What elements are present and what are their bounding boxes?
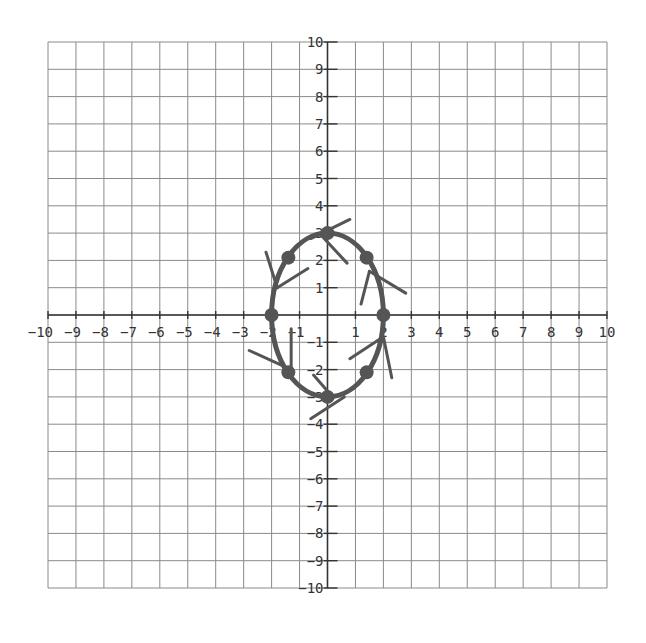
x-tick-label: 3 (407, 324, 415, 340)
x-tick-label: 1 (351, 324, 359, 340)
tangent-segment (383, 337, 391, 378)
x-tick-label: −5 (176, 324, 193, 340)
y-tick-label: −9 (307, 553, 324, 569)
x-tick-label: −6 (148, 324, 165, 340)
x-tick-label: −8 (92, 324, 109, 340)
x-tick-label: 9 (575, 324, 583, 340)
y-tick-label: −7 (307, 498, 324, 514)
x-tick-label: −4 (204, 324, 221, 340)
y-tick-label: 10 (307, 34, 324, 50)
x-tick-label: −10 (28, 324, 53, 340)
point-marker (360, 251, 374, 265)
y-tick-label: −6 (307, 471, 324, 487)
coordinate-plane: −10−9−8−7−6−5−4−3−2−112345678910 −10−9−8… (0, 0, 646, 643)
point-marker (281, 251, 295, 265)
y-tick-label: −10 (298, 580, 323, 596)
point-marker (321, 226, 335, 240)
x-tick-label: 7 (519, 324, 527, 340)
y-tick-label: −8 (307, 525, 324, 541)
point-marker (321, 390, 335, 404)
point-marker (360, 365, 374, 379)
y-tick-label: 6 (315, 143, 323, 159)
x-tick-label: 4 (435, 324, 443, 340)
x-tick-label: 8 (547, 324, 555, 340)
y-tick-label: 8 (315, 89, 323, 105)
y-tick-label: −4 (307, 416, 324, 432)
y-tick-label: 9 (315, 61, 323, 77)
y-tick-label: 7 (315, 116, 323, 132)
x-tick-label: 10 (599, 324, 616, 340)
y-tick-label: 5 (315, 171, 323, 187)
x-tick-label: 6 (491, 324, 499, 340)
x-tick-label: −3 (232, 324, 249, 340)
x-tick-label: 5 (463, 324, 471, 340)
y-tick-label: −1 (307, 334, 324, 350)
x-tick-label: −7 (120, 324, 137, 340)
point-marker (376, 308, 390, 322)
y-tick-label: 4 (315, 198, 323, 214)
y-tick-label: 1 (315, 280, 323, 296)
y-tick-label: 2 (315, 252, 323, 268)
point-marker (265, 308, 279, 322)
point-marker (281, 365, 295, 379)
y-tick-label: −5 (307, 444, 324, 460)
x-tick-label: −9 (64, 324, 81, 340)
